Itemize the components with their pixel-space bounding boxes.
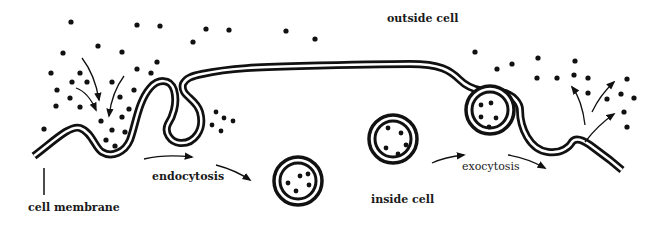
exocytosis-arrow-1 bbox=[432, 155, 464, 163]
pocket-particles bbox=[210, 110, 236, 134]
vesicle-fusing bbox=[466, 86, 514, 134]
label-exocytosis: exocytosis bbox=[462, 160, 520, 173]
vesicle-free-left bbox=[274, 157, 322, 205]
endocytosis-arrow-1 bbox=[144, 156, 192, 159]
diagram-svg bbox=[0, 0, 662, 226]
outflow-arrows bbox=[572, 82, 614, 142]
vesicle-free-right bbox=[369, 115, 417, 163]
label-cell-membrane: cell membrane bbox=[28, 201, 120, 214]
label-endocytosis: endocytosis bbox=[152, 170, 224, 183]
label-inside-cell: inside cell bbox=[371, 193, 434, 206]
diagram-canvas: outside cell inside cell endocytosis exo… bbox=[0, 0, 662, 226]
label-outside-cell: outside cell bbox=[387, 12, 458, 25]
inflow-arrows bbox=[76, 58, 124, 116]
